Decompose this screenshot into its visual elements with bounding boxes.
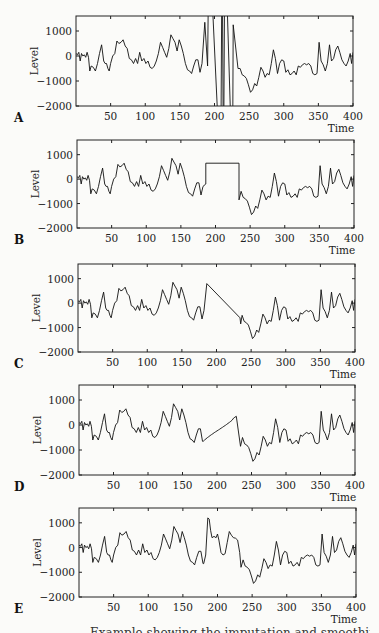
x-tick-label: 200 xyxy=(205,232,225,244)
y-tick-label: 0 xyxy=(67,297,74,309)
x-tick-label: 300 xyxy=(277,601,297,613)
panel-letter: A xyxy=(13,111,24,125)
y-tick-label: −1000 xyxy=(36,75,72,87)
x-tick-label: 400 xyxy=(345,479,365,491)
figure: 5010015020025030035040010000−1000−2000Ti… xyxy=(0,0,379,633)
x-tick-label: 350 xyxy=(310,479,330,491)
panel-d: 5010015020025030035040010000−1000−2000Ti… xyxy=(14,385,365,503)
x-tick-label: 250 xyxy=(241,356,261,368)
y-tick-label: 1000 xyxy=(47,273,74,285)
series-line xyxy=(79,404,355,462)
x-axis-label: Time xyxy=(330,491,357,503)
x-axis-label: Time xyxy=(331,613,358,625)
x-tick-label: 150 xyxy=(172,356,192,368)
x-tick-label: 100 xyxy=(137,356,157,368)
x-tick-label: 200 xyxy=(206,356,226,368)
x-tick-label: 250 xyxy=(242,601,262,613)
plot-frame xyxy=(79,508,356,597)
y-tick-label: −1000 xyxy=(39,566,75,578)
x-tick-label: 100 xyxy=(136,232,156,244)
x-tick-label: 350 xyxy=(308,110,328,122)
panel-letter: D xyxy=(14,480,24,494)
series-line xyxy=(77,158,354,214)
y-tick-label: 1000 xyxy=(45,25,72,37)
x-tick-label: 50 xyxy=(106,356,119,368)
x-axis-label: Time xyxy=(328,122,355,134)
series-line xyxy=(76,0,353,181)
y-tick-label: −1000 xyxy=(37,198,73,210)
x-tick-label: 400 xyxy=(344,232,364,244)
x-tick-label: 150 xyxy=(170,110,190,122)
x-tick-label: 300 xyxy=(276,356,296,368)
y-tick-label: −2000 xyxy=(36,100,72,112)
x-axis-label: Time xyxy=(329,244,356,256)
y-tick-label: −2000 xyxy=(38,346,74,358)
plot-frame xyxy=(76,16,353,106)
panel-c: 5010015020025030035040010000−1000−2000Ti… xyxy=(14,264,365,380)
x-tick-label: 100 xyxy=(138,601,158,613)
y-tick-label: 1000 xyxy=(48,394,75,406)
x-tick-label: 100 xyxy=(135,110,155,122)
x-tick-label: 200 xyxy=(207,479,227,491)
y-axis-label: Level xyxy=(29,169,41,198)
panel-letter: C xyxy=(14,357,24,371)
x-tick-label: 300 xyxy=(275,232,295,244)
x-tick-label: 400 xyxy=(345,356,365,368)
plot-frame xyxy=(79,385,355,475)
y-tick-label: −1000 xyxy=(39,444,75,456)
x-tick-label: 100 xyxy=(138,479,158,491)
x-tick-label: 350 xyxy=(309,232,329,244)
x-tick-label: 250 xyxy=(239,110,259,122)
x-tick-label: 350 xyxy=(311,601,331,613)
series-line xyxy=(78,282,355,338)
x-tick-label: 250 xyxy=(241,479,261,491)
x-tick-label: 50 xyxy=(107,479,120,491)
plot-frame xyxy=(77,140,354,228)
panel-letter: E xyxy=(14,602,23,616)
y-axis-label: Level xyxy=(31,415,43,444)
series-line xyxy=(79,518,356,584)
x-tick-label: 150 xyxy=(171,232,191,244)
y-tick-label: 0 xyxy=(65,50,72,62)
x-tick-label: 400 xyxy=(346,601,366,613)
y-axis-label: Level xyxy=(30,293,42,322)
x-axis-label: Time xyxy=(330,368,357,380)
panel-e: 5010015020025030035040010000−1000−2000Ti… xyxy=(14,508,366,625)
y-axis-label: Level xyxy=(28,46,40,75)
x-tick-label: 150 xyxy=(172,479,192,491)
x-tick-label: 400 xyxy=(343,110,363,122)
y-tick-label: 0 xyxy=(66,173,73,185)
x-tick-label: 50 xyxy=(107,601,120,613)
x-tick-label: 150 xyxy=(173,601,193,613)
y-tick-label: 0 xyxy=(68,542,75,554)
y-tick-label: −2000 xyxy=(39,469,75,481)
x-tick-label: 200 xyxy=(204,110,224,122)
y-tick-label: −2000 xyxy=(37,222,73,234)
x-tick-label: 200 xyxy=(207,601,227,613)
panel-b: 5010015020025030035040010000−1000−2000Ti… xyxy=(14,140,364,256)
plot-frame xyxy=(78,264,355,352)
figure-caption: Example showing the imputation and smoot… xyxy=(90,626,370,633)
x-tick-label: 300 xyxy=(276,479,296,491)
y-axis-label: Level xyxy=(31,538,43,567)
panel-letter: B xyxy=(14,233,24,247)
x-tick-label: 250 xyxy=(240,232,260,244)
x-tick-label: 350 xyxy=(310,356,330,368)
x-tick-label: 50 xyxy=(104,110,117,122)
y-tick-label: −1000 xyxy=(38,322,74,334)
y-tick-label: −2000 xyxy=(39,591,75,603)
x-tick-label: 300 xyxy=(274,110,294,122)
y-tick-label: 1000 xyxy=(46,149,73,161)
x-tick-label: 50 xyxy=(105,232,118,244)
y-tick-label: 1000 xyxy=(48,517,75,529)
y-tick-label: 0 xyxy=(68,419,75,431)
